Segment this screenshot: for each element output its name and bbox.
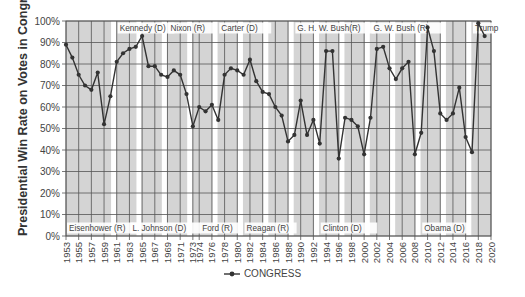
data-point — [280, 114, 284, 118]
data-point — [64, 43, 68, 47]
x-tick-label: 1994 — [321, 242, 332, 263]
x-tick-label: 1976 — [206, 242, 217, 263]
data-point — [102, 122, 106, 126]
x-tick-label: 1955 — [73, 242, 84, 263]
data-point — [273, 105, 277, 109]
data-point — [330, 49, 334, 53]
data-point — [146, 64, 150, 68]
x-tick-label: 2018 — [473, 242, 484, 263]
x-tick-label: 1988 — [283, 242, 294, 263]
y-tick-label: 30% — [40, 166, 60, 177]
legend: CONGRESS — [0, 268, 525, 280]
president-label: Obama (D) — [424, 224, 465, 233]
data-point — [381, 45, 385, 49]
president-label: Reagan (R) — [247, 224, 290, 233]
data-point — [203, 109, 207, 113]
y-tick-label: 100% — [34, 16, 60, 27]
data-point — [362, 152, 366, 156]
president-label: Kennedy (D) — [120, 24, 166, 33]
y-tick-label: 40% — [40, 145, 60, 156]
x-tick-label: 2016 — [460, 242, 471, 263]
data-point — [349, 118, 353, 122]
x-tick-label: 1992 — [308, 242, 319, 263]
data-point — [172, 68, 176, 72]
president-label: Eisenhower (R) — [69, 224, 126, 233]
data-point — [89, 88, 93, 92]
data-point — [184, 92, 188, 96]
x-tick-label: 1980 — [232, 242, 243, 263]
data-point — [267, 92, 271, 96]
data-point — [337, 157, 341, 161]
data-point — [432, 49, 436, 53]
y-tick-label: 0% — [46, 231, 61, 242]
data-point — [77, 73, 81, 77]
data-point — [343, 116, 347, 120]
legend-marker-icon — [224, 269, 240, 280]
x-tick-label: 1959 — [99, 242, 110, 263]
x-tick-label: 1963 — [124, 242, 135, 263]
president-label: Carter (D) — [221, 24, 258, 33]
x-tick-label: 2000 — [359, 242, 370, 263]
data-point — [235, 68, 239, 72]
data-point — [299, 98, 303, 102]
data-point — [292, 133, 296, 137]
y-tick-label: 90% — [40, 37, 60, 48]
x-tick-label: 2006 — [397, 242, 408, 263]
data-point — [197, 105, 201, 109]
data-point — [248, 58, 252, 62]
x-tick-label: 1953 — [61, 242, 72, 263]
x-tick-label: 2002 — [371, 242, 382, 263]
line-chart: 0%10%20%30%40%50%60%70%80%90%100%1953195… — [0, 0, 525, 297]
data-point — [153, 64, 157, 68]
data-point — [425, 25, 429, 29]
data-point — [413, 152, 417, 156]
x-tick-label: 1986 — [270, 242, 281, 263]
y-tick-label: 10% — [40, 209, 60, 220]
data-point — [483, 34, 487, 38]
x-tick-label: 2010 — [422, 242, 433, 263]
y-tick-label: 70% — [40, 80, 60, 91]
x-tick-label: 1990 — [295, 242, 306, 263]
data-point — [286, 139, 290, 143]
data-point — [222, 73, 226, 77]
data-point — [127, 47, 131, 51]
president-label: G. W. Bush (R) — [373, 24, 428, 33]
data-point — [165, 75, 169, 79]
data-point — [394, 77, 398, 81]
data-point — [457, 86, 461, 90]
data-point — [375, 47, 379, 51]
x-tick-label: 1961 — [111, 242, 122, 263]
data-point — [159, 73, 163, 77]
data-point — [115, 60, 119, 64]
y-tick-label: 50% — [40, 123, 60, 134]
data-point — [311, 118, 315, 122]
data-point — [356, 124, 360, 128]
data-point — [178, 73, 182, 77]
x-tick-label: 1978 — [219, 242, 230, 263]
x-tick-label: 1967 — [149, 242, 160, 263]
data-point — [387, 66, 391, 70]
x-tick-label: 1971 — [175, 242, 186, 263]
data-point — [400, 66, 404, 70]
x-tick-label: 1957 — [86, 242, 97, 263]
data-point — [83, 83, 87, 87]
data-point — [254, 79, 258, 83]
data-point — [438, 111, 442, 115]
data-point — [140, 34, 144, 38]
data-point — [470, 150, 474, 154]
data-point — [406, 60, 410, 64]
president-label: Nixon (R) — [170, 24, 205, 33]
x-tick-label: 1982 — [244, 242, 255, 263]
x-tick-label: 1974 — [194, 242, 205, 263]
x-tick-label: 1996 — [333, 242, 344, 263]
data-point — [210, 103, 214, 107]
data-point — [96, 71, 100, 75]
y-tick-label: 20% — [40, 188, 60, 199]
data-point — [70, 55, 74, 59]
data-point — [324, 49, 328, 53]
data-point — [451, 111, 455, 115]
data-point — [242, 73, 246, 77]
data-point — [305, 133, 309, 137]
y-tick-label: 80% — [40, 59, 60, 70]
data-point — [318, 141, 322, 145]
